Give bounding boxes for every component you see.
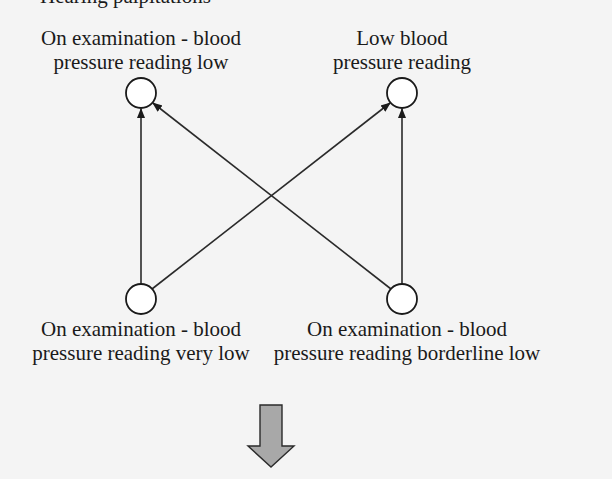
label-line: pressure reading	[333, 50, 471, 74]
node-circle-bottom-left	[126, 284, 156, 314]
label-line: On examination - blood	[41, 26, 241, 50]
label-line: On examination - blood	[274, 317, 541, 341]
node-circle-top-right	[387, 78, 417, 108]
label-line: On examination - blood	[32, 317, 250, 341]
node-label-top-left: On examination - blood pressure reading …	[41, 26, 241, 74]
node-label-bottom-right: On examination - blood pressure reading …	[274, 317, 541, 365]
node-circle-top-left	[126, 78, 156, 108]
down-arrow-icon	[248, 405, 294, 467]
node-label-bottom-left: On examination - blood pressure reading …	[32, 317, 250, 365]
label-line: pressure reading very low	[32, 341, 250, 365]
label-line: pressure reading borderline low	[274, 341, 541, 365]
label-line: pressure reading low	[41, 50, 241, 74]
label-line: Low blood	[333, 26, 471, 50]
diagram: Hearing palpitations On examination - bl…	[0, 0, 612, 479]
node-label-top-right: Low blood pressure reading	[333, 26, 471, 74]
node-circle-bottom-right	[387, 284, 417, 314]
